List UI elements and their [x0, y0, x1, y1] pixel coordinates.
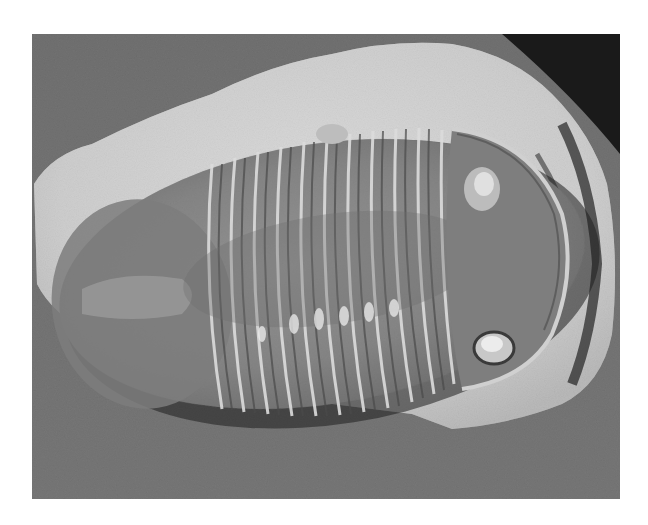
trilobite-illustration: [32, 34, 620, 499]
trilobite-photo: Black and white photograph of a trilobit…: [32, 34, 620, 499]
